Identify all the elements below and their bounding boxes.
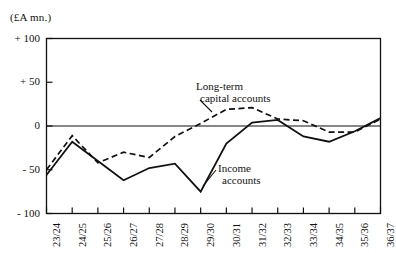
x-axis-tick-label: 28/29 <box>179 223 190 247</box>
income-label-leader <box>203 170 216 186</box>
x-axis-tick-label: 32/33 <box>282 223 293 247</box>
x-axis-tick-label: 33/34 <box>308 223 319 247</box>
annotation-line: capital accounts <box>200 92 271 104</box>
x-axis-tick-label: 30/31 <box>231 223 242 247</box>
x-axis-tick-label: 36/37 <box>385 223 396 247</box>
x-axis-tick-label: 23/24 <box>51 223 62 247</box>
annotation-line: accounts <box>222 174 260 186</box>
income-accounts-label: Incomeaccounts <box>218 162 260 187</box>
y-axis-tick-label: + 100 <box>2 32 40 44</box>
x-axis-tick-label: 26/27 <box>128 223 139 247</box>
x-axis-tick-label: 24/25 <box>77 223 88 247</box>
y-axis-tick-label: + 50 <box>2 75 40 87</box>
annotation-line: Long-term <box>196 80 271 92</box>
y-axis-tick-label: - 50 <box>2 163 40 175</box>
series-line-long-term-capital-accounts <box>47 108 381 170</box>
x-axis-tick-label: 29/30 <box>205 223 216 247</box>
x-axis-tick-label: 34/35 <box>334 223 345 247</box>
x-axis-tick-label: 31/32 <box>257 223 268 247</box>
x-axis-tick-label: 27/28 <box>154 223 165 247</box>
annotation-line: Income <box>218 162 260 174</box>
series-line-income-accounts <box>47 118 381 192</box>
x-axis-tick-label: 35/36 <box>359 223 370 247</box>
y-axis-tick-label: 0 <box>2 119 40 131</box>
x-axis-tick-label: 25/26 <box>102 223 113 247</box>
y-axis-tick-label: - 100 <box>2 207 40 219</box>
long-term-capital-accounts-label: Long-termcapital accounts <box>196 80 271 105</box>
